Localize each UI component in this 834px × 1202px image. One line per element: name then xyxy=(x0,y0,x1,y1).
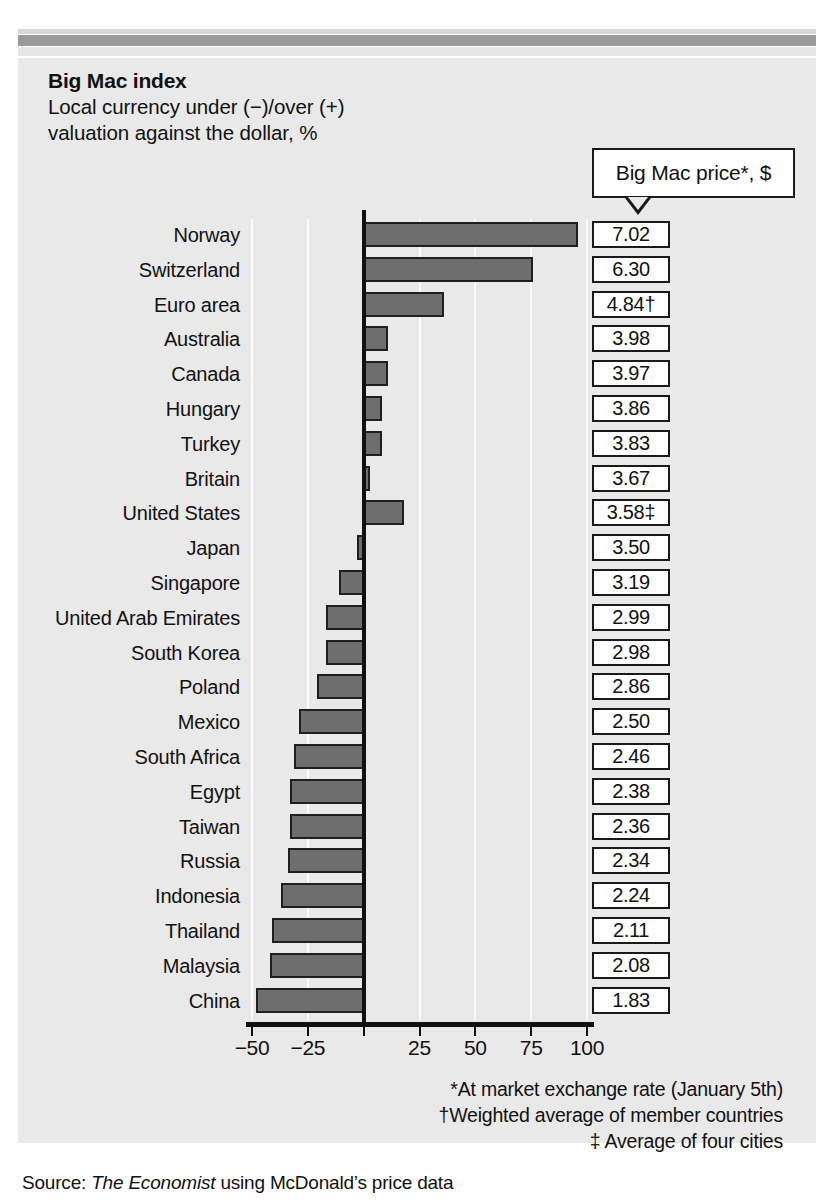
price-box: 1.83 xyxy=(592,987,670,1014)
source-suffix: using McDonald’s price data xyxy=(215,1172,453,1193)
bar xyxy=(364,257,534,282)
price-box: 3.58‡ xyxy=(592,499,670,526)
price-box: 7.02 xyxy=(592,221,670,248)
x-axis-tick xyxy=(363,1027,365,1036)
x-axis-tick xyxy=(474,1027,476,1036)
gridline xyxy=(530,219,532,1020)
x-axis-tick-label: 25 xyxy=(408,1036,431,1060)
bar xyxy=(272,918,364,943)
x-axis-tick-label: −50 xyxy=(235,1036,270,1060)
price-box: 2.46 xyxy=(592,743,670,770)
country-label: China xyxy=(0,990,240,1013)
source-line: Source: The Economist using McDonald’s p… xyxy=(22,1172,453,1194)
bar xyxy=(326,640,364,665)
heading-block: Big Mac index Local currency under (−)/o… xyxy=(48,68,568,146)
top-rule-shadow xyxy=(18,47,816,56)
bar xyxy=(299,709,364,734)
price-box: 3.98 xyxy=(592,325,670,352)
country-label: Euro area xyxy=(0,294,240,317)
country-label: Russia xyxy=(0,850,240,873)
chart-page: Big Mac index Local currency under (−)/o… xyxy=(0,0,834,1202)
country-label: United States xyxy=(0,502,240,525)
subtitle-line-2: valuation against the dollar, % xyxy=(48,120,568,146)
x-axis-tick-label: 50 xyxy=(464,1036,487,1060)
price-column-label: Big Mac price*, $ xyxy=(616,161,771,185)
bar xyxy=(290,779,364,804)
footnote-asterisk: *At market exchange rate (January 5th) xyxy=(0,1076,783,1102)
source-publication: The Economist xyxy=(91,1172,215,1193)
x-axis-tick-label: −25 xyxy=(290,1036,325,1060)
bar xyxy=(364,431,382,456)
country-label: Poland xyxy=(0,676,240,699)
price-box: 2.98 xyxy=(592,639,670,666)
country-label: Indonesia xyxy=(0,885,240,908)
country-label: Egypt xyxy=(0,781,240,804)
price-box: 2.11 xyxy=(592,917,670,944)
x-axis-tick xyxy=(586,1027,588,1036)
price-box: 3.86 xyxy=(592,395,670,422)
x-axis-tick-label: 75 xyxy=(520,1036,543,1060)
country-label: Switzerland xyxy=(0,259,240,282)
bar xyxy=(317,674,364,699)
price-box: 3.50 xyxy=(592,534,670,561)
country-label: Britain xyxy=(0,468,240,491)
price-box: 2.99 xyxy=(592,604,670,631)
gridline xyxy=(251,219,253,1020)
country-label: Australia xyxy=(0,328,240,351)
top-rule-dark xyxy=(18,35,816,46)
bar xyxy=(270,953,364,978)
bar xyxy=(290,814,364,839)
price-box: 2.50 xyxy=(592,708,670,735)
country-label: Turkey xyxy=(0,433,240,456)
bar xyxy=(364,326,389,351)
bar xyxy=(364,292,444,317)
zero-axis-line xyxy=(362,210,366,1022)
footnote-dagger: †Weighted average of member countries xyxy=(0,1102,783,1128)
price-column-callout: Big Mac price*, $ xyxy=(592,148,795,198)
country-label: South Africa xyxy=(0,746,240,769)
country-label: Taiwan xyxy=(0,816,240,839)
bar xyxy=(326,605,364,630)
page-title: Big Mac index xyxy=(48,68,568,93)
source-prefix: Source: xyxy=(22,1172,91,1193)
bar xyxy=(256,988,363,1013)
price-box: 2.38 xyxy=(592,778,670,805)
country-label: Thailand xyxy=(0,920,240,943)
plot-area xyxy=(252,219,587,1020)
price-box: 3.83 xyxy=(592,430,670,457)
bar xyxy=(294,744,363,769)
price-box: 6.30 xyxy=(592,256,670,283)
footnotes-block: *At market exchange rate (January 5th) †… xyxy=(0,1076,800,1154)
bar xyxy=(339,570,364,595)
x-axis-tick-label: 100 xyxy=(570,1036,604,1060)
bar xyxy=(288,848,364,873)
price-box: 2.86 xyxy=(592,673,670,700)
country-label: United Arab Emirates xyxy=(0,607,240,630)
callout-tail-inner-icon xyxy=(628,197,648,210)
country-label: Mexico xyxy=(0,711,240,734)
bar xyxy=(364,500,404,525)
price-box: 3.67 xyxy=(592,465,670,492)
top-rule-light xyxy=(18,29,816,34)
country-label: South Korea xyxy=(0,642,240,665)
price-box: 3.97 xyxy=(592,360,670,387)
bar xyxy=(364,222,578,247)
gridline xyxy=(586,219,588,1020)
x-axis-tick xyxy=(530,1027,532,1036)
price-box: 4.84† xyxy=(592,291,670,318)
country-label: Singapore xyxy=(0,572,240,595)
x-axis-tick xyxy=(251,1027,253,1036)
country-label: Malaysia xyxy=(0,955,240,978)
bar xyxy=(364,396,382,421)
price-box: 3.19 xyxy=(592,569,670,596)
price-box: 2.08 xyxy=(592,952,670,979)
gridline xyxy=(419,219,421,1020)
bar xyxy=(281,883,364,908)
country-label: Hungary xyxy=(0,398,240,421)
price-box: 2.36 xyxy=(592,813,670,840)
subtitle-line-1: Local currency under (−)/over (+) xyxy=(48,94,568,120)
price-box: 2.24 xyxy=(592,882,670,909)
country-label: Norway xyxy=(0,224,240,247)
country-label: Japan xyxy=(0,537,240,560)
price-box: 2.34 xyxy=(592,847,670,874)
